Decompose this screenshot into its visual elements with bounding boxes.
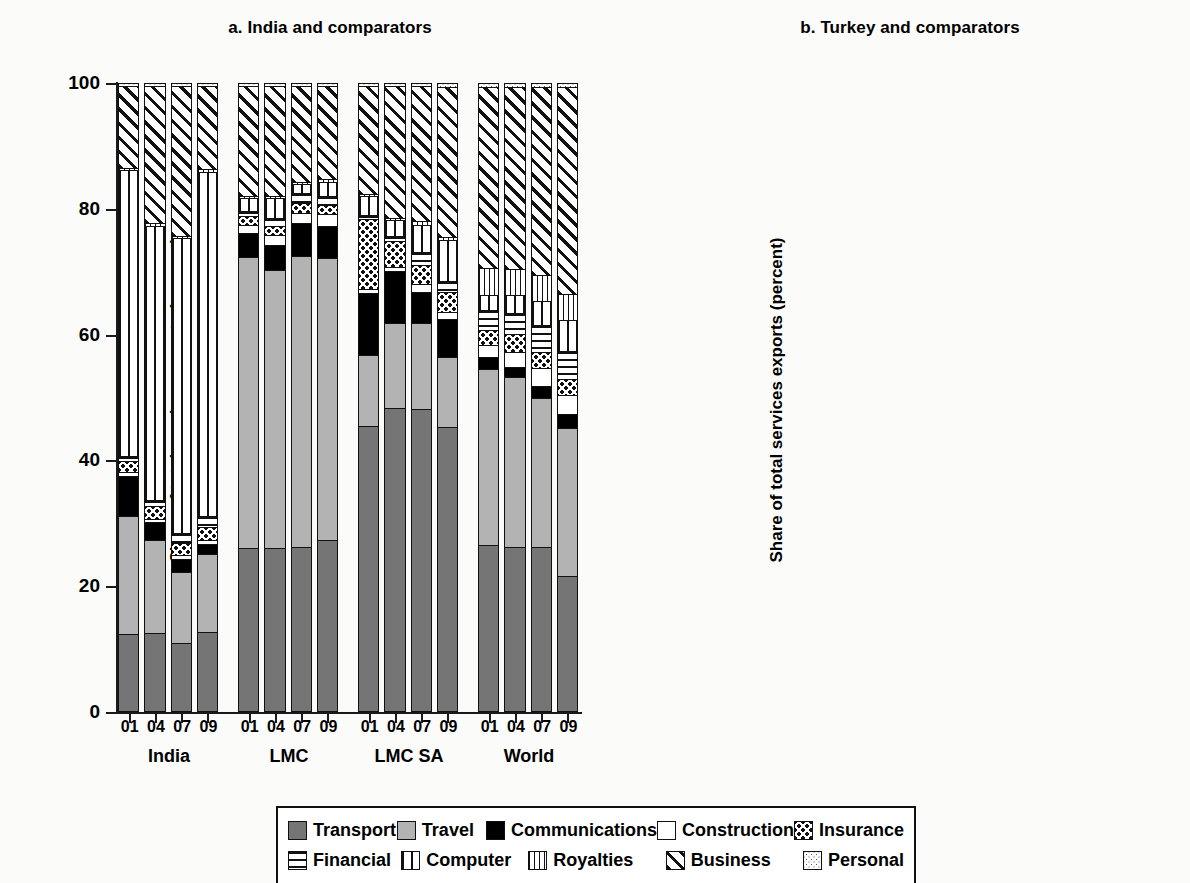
- segment-insurance: [411, 265, 432, 284]
- segment-communications: [384, 271, 405, 323]
- segment-transport: [557, 576, 578, 712]
- segment-travel: [504, 377, 525, 547]
- bar-lmc-sa-09[interactable]: [437, 83, 458, 712]
- legend-label-business: Business: [691, 850, 771, 871]
- bar-world-07[interactable]: [531, 83, 552, 712]
- segment-communications: [411, 292, 432, 323]
- segment-communications: [358, 293, 379, 355]
- segment-computer: [437, 240, 458, 280]
- legend-item-construction[interactable]: Construction: [657, 820, 794, 841]
- segment-royalties: [504, 269, 525, 295]
- legend-item-business[interactable]: Business: [666, 850, 803, 871]
- bar-lmc-01[interactable]: [238, 83, 259, 712]
- legend-item-transport[interactable]: Transport: [288, 820, 397, 841]
- segment-travel: [238, 257, 259, 548]
- legend-label-insurance: Insurance: [819, 820, 904, 841]
- panel-a-title: a. India and comparators: [0, 18, 600, 38]
- segment-business: [118, 86, 139, 168]
- y-tick-label-20: 20: [79, 575, 100, 597]
- bar-lmc-04[interactable]: [264, 83, 285, 712]
- legend-label-computer: Computer: [426, 850, 511, 871]
- figure-canvas: a. India and comparators Share of total …: [0, 0, 1190, 883]
- segment-royalties: [118, 168, 139, 170]
- bar-india-09[interactable]: [197, 83, 218, 712]
- bar-group-india: [118, 83, 220, 712]
- segment-personal: [118, 83, 139, 86]
- segment-insurance: [504, 334, 525, 352]
- segment-financial: [384, 236, 405, 241]
- legend-label-construction: Construction: [682, 820, 794, 841]
- segment-personal: [197, 83, 218, 86]
- segment-financial: [144, 500, 165, 506]
- bar-lmc-sa-07[interactable]: [411, 83, 432, 712]
- legend-label-financial: Financial: [313, 850, 391, 871]
- bar-lmc-sa-01[interactable]: [358, 83, 379, 712]
- bar-india-07[interactable]: [171, 83, 192, 712]
- x-year-label-09: 09: [199, 718, 217, 736]
- segment-transport: [144, 633, 165, 712]
- segment-computer: [557, 320, 578, 351]
- segment-business: [317, 86, 338, 179]
- segment-computer: [238, 198, 259, 211]
- legend-item-financial[interactable]: Financial: [288, 850, 401, 871]
- segment-business: [504, 87, 525, 268]
- segment-communications: [504, 367, 525, 377]
- construction-swatch-icon: [657, 821, 676, 840]
- segment-construction: [197, 540, 218, 544]
- segment-royalties: [358, 194, 379, 196]
- segment-travel: [437, 357, 458, 427]
- segment-financial: [264, 218, 285, 226]
- x-group-label-lmc-sa: LMC SA: [375, 746, 444, 767]
- bar-world-01[interactable]: [478, 83, 499, 712]
- segment-royalties: [557, 294, 578, 320]
- legend-item-insurance[interactable]: Insurance: [794, 820, 904, 841]
- segment-construction: [411, 284, 432, 292]
- y-tick-label-100: 100: [68, 72, 100, 94]
- plot-area-a: 02040608010001040709India01040709LMC0104…: [118, 83, 580, 712]
- segment-construction: [291, 213, 312, 223]
- x-year-label-07: 07: [173, 718, 191, 736]
- panel-b-title: b. Turkey and comparators: [600, 18, 1190, 38]
- legend-item-computer[interactable]: Computer: [401, 850, 528, 871]
- x-year-label-07: 07: [413, 718, 431, 736]
- legend-item-personal[interactable]: Personal: [803, 850, 904, 871]
- segment-computer: [531, 301, 552, 325]
- segment-communications: [171, 559, 192, 573]
- x-year-label-04: 04: [387, 718, 405, 736]
- segment-personal: [557, 83, 578, 87]
- y-tick-40: [106, 460, 118, 462]
- bar-lmc-07[interactable]: [291, 83, 312, 712]
- segment-travel: [557, 428, 578, 576]
- segment-personal: [504, 83, 525, 87]
- communications-swatch-icon: [486, 821, 505, 840]
- legend-item-royalties[interactable]: Royalties: [528, 850, 665, 871]
- segment-transport: [197, 632, 218, 712]
- segment-travel: [358, 355, 379, 426]
- segment-travel: [264, 270, 285, 548]
- bar-lmc-09[interactable]: [317, 83, 338, 712]
- bar-lmc-sa-04[interactable]: [384, 83, 405, 712]
- segment-financial: [197, 516, 218, 527]
- y-tick-label-80: 80: [79, 198, 100, 220]
- travel-swatch-icon: [397, 821, 416, 840]
- segment-royalties: [238, 196, 259, 199]
- panel-india: a. India and comparators Share of total …: [0, 0, 600, 800]
- panel-turkey: b. Turkey and comparators Share of total…: [600, 0, 1190, 800]
- segment-royalties: [317, 179, 338, 182]
- segment-insurance: [144, 506, 165, 519]
- segment-computer: [144, 226, 165, 500]
- legend-item-communications[interactable]: Communications: [486, 820, 657, 841]
- bar-india-04[interactable]: [144, 83, 165, 712]
- segment-transport: [118, 634, 139, 712]
- bar-world-04[interactable]: [504, 83, 525, 712]
- segment-insurance: [531, 352, 552, 368]
- x-year-label-04: 04: [147, 718, 165, 736]
- bar-india-01[interactable]: [118, 83, 139, 712]
- segment-financial: [291, 193, 312, 202]
- bar-world-09[interactable]: [557, 83, 578, 712]
- legend-item-travel[interactable]: Travel: [397, 820, 486, 841]
- segment-travel: [317, 258, 338, 540]
- x-year-label-04: 04: [507, 718, 525, 736]
- segment-computer: [478, 295, 499, 310]
- segment-communications: [437, 319, 458, 357]
